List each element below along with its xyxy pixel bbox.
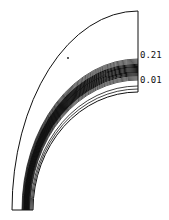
contour-plot — [0, 0, 169, 220]
inner-boundary — [33, 92, 138, 210]
contour-line — [30, 80, 138, 210]
marker-dot — [67, 57, 69, 59]
contour-line — [30, 79, 138, 210]
contour-label-lower: 0.01 — [140, 76, 162, 85]
contour-label-upper: 0.21 — [140, 51, 162, 60]
